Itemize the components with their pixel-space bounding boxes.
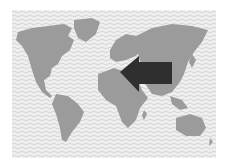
world-map-graphic xyxy=(12,10,216,158)
world-map xyxy=(12,10,216,158)
